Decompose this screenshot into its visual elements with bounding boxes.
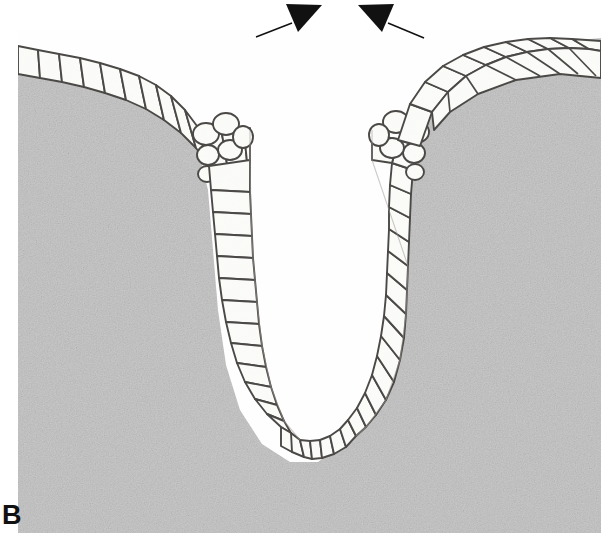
film-grain-overlay <box>18 30 601 535</box>
panel-label: B <box>2 500 22 530</box>
micrograph-frame <box>18 0 601 535</box>
micrograph-image <box>0 0 615 539</box>
figure-panel: B <box>0 0 615 539</box>
